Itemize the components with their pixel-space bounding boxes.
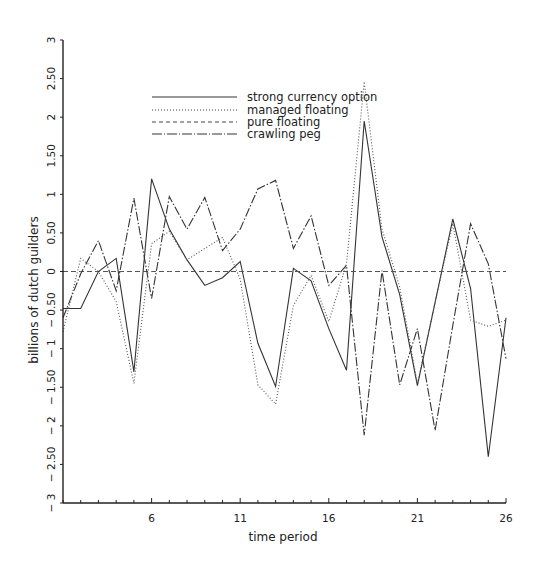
x-tick-label: 26 xyxy=(499,512,513,524)
y-tick-label: − 3 xyxy=(45,494,57,513)
y-tick-label: 3 xyxy=(45,37,57,44)
series-line-crawling-peg xyxy=(63,180,506,435)
legend-label: crawling peg xyxy=(247,127,321,141)
y-tick-label: − 0.50 xyxy=(45,292,57,328)
legend-label: strong currency option xyxy=(247,90,377,104)
series-line-strong-currency-option xyxy=(63,121,506,457)
x-axis-title: time period xyxy=(248,530,317,544)
x-tick-label: 21 xyxy=(411,512,424,524)
y-tick-label: 2.50 xyxy=(45,67,57,90)
x-tick-label: 16 xyxy=(322,512,336,524)
y-tick-label: − 1 xyxy=(45,339,57,358)
legend: strong currency option managed floating … xyxy=(152,90,377,141)
y-tick-label: 1.50 xyxy=(45,144,57,167)
y-tick-label: − 1.50 xyxy=(45,369,57,405)
y-axis-title: billions of dutch guilders xyxy=(27,216,41,363)
legend-item-strong-currency-option: strong currency option xyxy=(152,90,377,104)
y-ticks: − 3− 2.50− 2− 1.50− 1− 0.5000.5011.5022.… xyxy=(45,37,63,513)
y-tick-label: 0 xyxy=(45,268,57,275)
x-tick-label: 11 xyxy=(234,512,247,524)
y-tick-label: 2 xyxy=(45,114,57,121)
y-tick-label: − 2 xyxy=(45,416,57,435)
y-tick-label: 1 xyxy=(45,191,57,198)
line-chart: − 3− 2.50− 2− 1.50− 1− 0.5000.5011.5022.… xyxy=(0,0,541,576)
y-tick-label: − 2.50 xyxy=(45,447,57,483)
x-tick-label: 6 xyxy=(148,512,155,524)
x-ticks: 611162126 xyxy=(63,498,513,524)
legend-item-crawling-peg: crawling peg xyxy=(152,127,321,141)
y-tick-label: 0.50 xyxy=(45,221,57,244)
